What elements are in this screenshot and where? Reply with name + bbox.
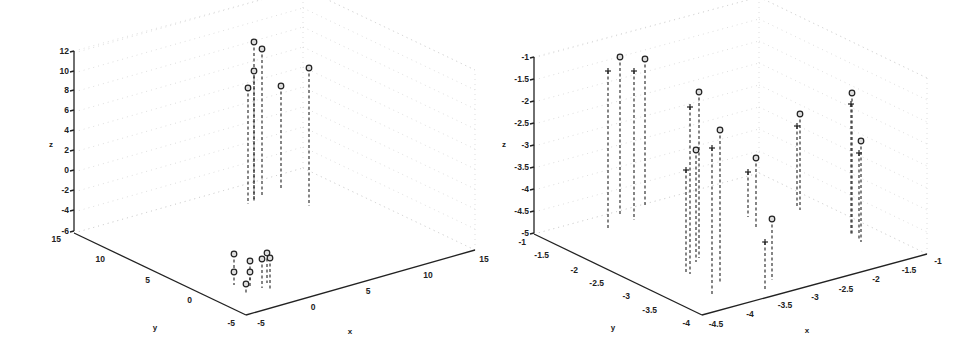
circle-marker	[251, 68, 257, 74]
right-z-tick-label: -4	[521, 184, 529, 194]
circle-marker	[306, 65, 312, 71]
right-z-tick-label: -1.5	[514, 74, 529, 84]
circle-marker	[245, 85, 251, 91]
right-data-points	[605, 54, 864, 295]
circle-marker	[769, 216, 775, 222]
right-z-tick-label: -4.5	[514, 206, 529, 216]
left-z-tick-label: -4	[61, 205, 69, 215]
circle-marker	[797, 111, 803, 117]
circle-marker	[858, 138, 864, 144]
left-z-tick-label: 8	[64, 85, 69, 95]
right-x-axis-label: x	[805, 326, 810, 335]
right-x-tick-label: -4.5	[709, 319, 724, 329]
left-z-tick-label: 2	[64, 145, 69, 155]
right-y-tick-label: -3	[622, 291, 630, 301]
figure: 121086420-2-4-6z151050-5y-5051015x-1-1.5…	[0, 0, 980, 353]
left-z-tick-label: -2	[61, 185, 69, 195]
left-z-tick-label: 10	[60, 66, 70, 76]
circle-marker	[617, 54, 623, 60]
right-x-tick-label: -4	[746, 309, 754, 319]
circle-marker	[693, 147, 699, 153]
circle-marker	[717, 127, 723, 133]
left-x-tick-label: 15	[479, 254, 489, 264]
circle-marker	[251, 39, 257, 45]
left-x-axis-label: x	[348, 327, 353, 336]
left-z-tick-label: 0	[64, 165, 69, 175]
circle-marker	[696, 89, 702, 95]
right-y-tick-label: -2	[570, 265, 578, 275]
left-grid	[74, 0, 475, 250]
right-y-tick-label: -2.5	[589, 278, 604, 288]
right-z-tick-label: -3	[521, 140, 529, 150]
left-z-axis-label: z	[49, 140, 53, 149]
right-x-tick-label: -1	[934, 256, 942, 266]
right-z-tick-label: -2.5	[514, 118, 529, 128]
right-y-tick-label: -3.5	[642, 305, 657, 315]
right-plot: -1-1.5-2-2.5-3-3.5-4-4.5-5z-1-1.5-2-2.5-…	[502, 0, 942, 335]
left-data-points	[231, 39, 312, 295]
left-axes: 121086420-2-4-6z151050-5y-5051015x	[49, 46, 489, 336]
right-x-tick-label: -3.5	[778, 300, 793, 310]
left-y-tick-label: -5	[227, 318, 235, 328]
right-z-axis-label: z	[502, 140, 506, 149]
left-y-tick-label: 10	[96, 254, 106, 264]
right-z-tick-label: -3.5	[514, 162, 529, 172]
circle-marker	[231, 251, 237, 257]
right-z-tick-label: -1	[521, 52, 529, 62]
left-x-tick-label: 10	[423, 270, 433, 280]
circle-marker	[247, 269, 253, 275]
circle-marker	[259, 46, 265, 52]
left-y-tick-label: 0	[187, 295, 192, 305]
right-grid	[534, 0, 927, 254]
left-z-tick-label: 12	[60, 46, 70, 56]
left-x-tick-label: 5	[366, 286, 371, 296]
circle-marker	[243, 281, 249, 287]
dual-3d-stem-plot: 121086420-2-4-6z151050-5y-5051015x-1-1.5…	[0, 0, 980, 353]
left-z-tick-label: -6	[61, 226, 69, 236]
right-y-tick-label: -4	[682, 318, 690, 328]
circle-marker	[247, 258, 253, 264]
right-x-tick-label: -2	[872, 274, 880, 284]
right-y-axis-label: y	[611, 323, 616, 332]
left-x-tick-label: 0	[311, 302, 316, 312]
circle-marker	[259, 256, 265, 262]
left-x-tick-label: -5	[257, 318, 265, 328]
right-x-tick-label: -1.5	[902, 265, 917, 275]
right-z-tick-label: -2	[521, 96, 529, 106]
right-x-tick-label: -3	[811, 292, 819, 302]
right-y-tick-label: -1	[518, 237, 526, 247]
right-y-axis-line	[534, 234, 702, 315]
left-plot: 121086420-2-4-6z151050-5y-5051015x	[49, 0, 489, 336]
right-y-tick-label: -1.5	[534, 250, 549, 260]
left-z-tick-label: 6	[64, 105, 69, 115]
right-axes: -1-1.5-2-2.5-3-3.5-4-4.5-5z-1-1.5-2-2.5-…	[502, 52, 942, 335]
circle-marker	[278, 83, 284, 89]
left-y-tick-label: 5	[145, 275, 150, 285]
circle-marker	[849, 90, 855, 96]
left-x-axis-line	[246, 250, 475, 315]
circle-marker	[231, 269, 237, 275]
right-x-axis-line	[702, 254, 927, 315]
left-y-tick-label: 15	[52, 234, 62, 244]
circle-marker	[753, 155, 759, 161]
circle-marker	[642, 56, 648, 62]
circle-marker	[267, 255, 273, 261]
left-z-tick-label: 4	[64, 125, 69, 135]
left-y-axis-line	[74, 233, 246, 315]
right-x-tick-label: -2.5	[839, 284, 854, 294]
left-y-axis-label: y	[153, 323, 158, 332]
